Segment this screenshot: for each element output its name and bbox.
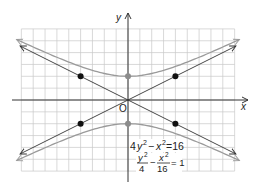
eq2-den1: 4 [139,163,144,174]
equation-standard: 4 y 2 − x 2 =16 [129,139,184,152]
eq1-x: x [155,140,162,152]
eq2-minus: − [150,157,156,168]
origin-label: O [119,103,127,114]
y-axis-label: y [115,12,122,23]
box-corner-point [78,121,84,127]
eq2-num2-exp: 2 [165,151,169,158]
eq2-num1-exp: 2 [144,151,148,158]
box-corner-point [172,73,178,79]
eq1-rhs: =16 [166,140,184,152]
x-axis-label: x [240,101,247,112]
eq1-minus: − [148,140,154,152]
hyperbola-chart: y x O 4 y 2 − x 2 =16 y 2 4 − x 2 16 = 1 [0,0,256,185]
equation-normalized: y 2 4 − x 2 16 = 1 [136,151,184,175]
eq1-y-exp: 2 [143,139,147,146]
box-corner-point [172,121,178,127]
eq2-den2: 16 [157,163,168,174]
vertex-point [125,121,131,127]
box-corner-point [78,73,84,79]
vertex-point [125,73,131,79]
eq2-rhs: = 1 [171,157,184,168]
axes [12,13,248,182]
eq1-y: y [136,140,143,152]
eq1-coef: 4 [130,140,136,152]
